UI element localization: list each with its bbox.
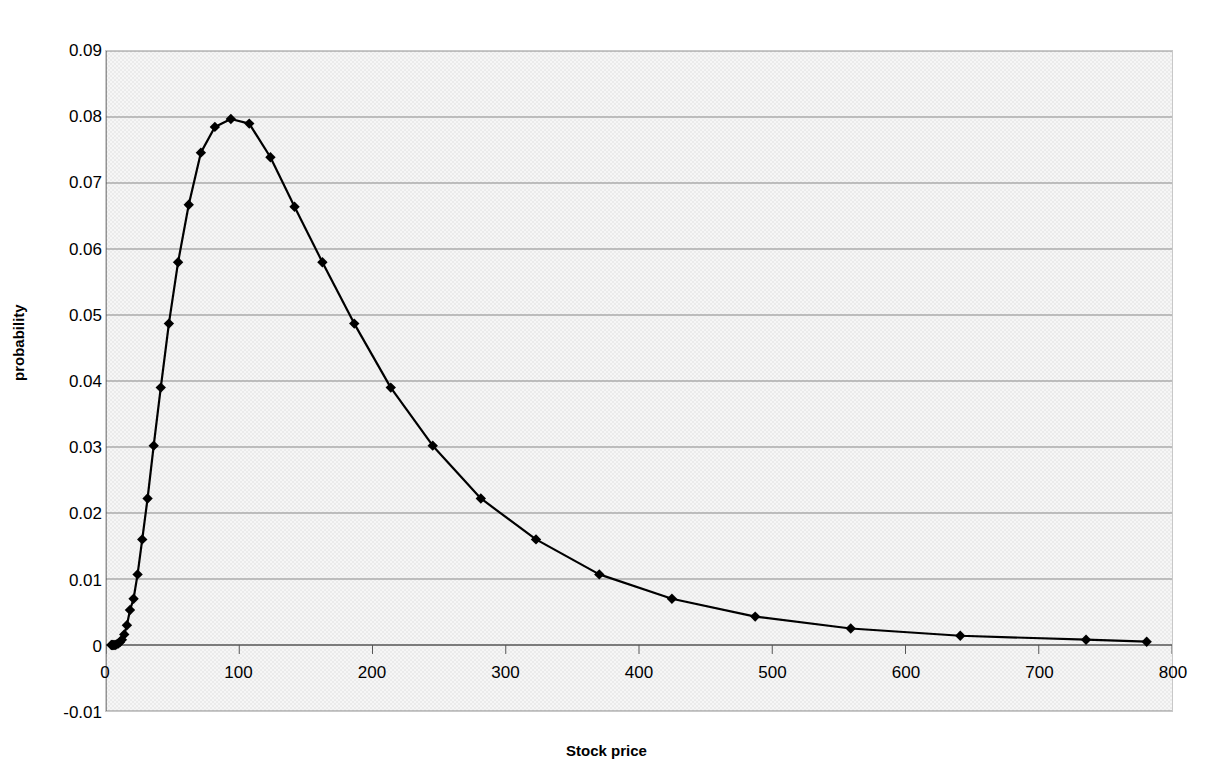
data-point-marker: [156, 382, 166, 392]
series-line: [111, 119, 1146, 645]
data-point-marker: [164, 318, 174, 328]
data-point-marker: [244, 118, 254, 128]
y-tick-label: 0.01: [12, 571, 102, 588]
y-tick-label: 0.06: [12, 240, 102, 257]
data-point-marker: [184, 200, 194, 210]
data-point-marker: [128, 594, 138, 604]
data-point-marker: [667, 594, 677, 604]
data-point-marker: [226, 114, 236, 124]
data-point-marker: [265, 152, 275, 162]
x-tick-label: 100: [224, 664, 252, 681]
x-tick-label: 200: [358, 664, 386, 681]
series-markers-group: [106, 114, 1152, 650]
data-point-marker: [173, 257, 183, 267]
data-point-marker: [132, 569, 142, 579]
x-tick-label: 700: [1025, 664, 1053, 681]
data-point-marker: [750, 611, 760, 621]
data-point-marker: [149, 440, 159, 450]
data-point-marker: [142, 493, 152, 503]
data-point-marker: [125, 605, 135, 615]
x-axis-title: Stock price: [0, 742, 1213, 759]
data-point-marker: [1081, 635, 1091, 645]
x-tick-label: 500: [758, 664, 786, 681]
data-point-marker: [122, 620, 132, 630]
y-axis-title: probability: [10, 304, 27, 381]
x-tick-label: 300: [491, 664, 519, 681]
x-tick-label: 400: [625, 664, 653, 681]
data-point-marker: [210, 122, 220, 132]
y-tick-label: 0.08: [12, 108, 102, 125]
data-point-marker: [137, 534, 147, 544]
chart-container: -0.0100.010.020.030.040.050.060.070.080.…: [0, 0, 1213, 779]
y-tick-label: -0.01: [12, 704, 102, 721]
x-tick-label: 0: [100, 664, 109, 681]
data-point-marker: [317, 257, 327, 267]
data-point-marker: [955, 631, 965, 641]
data-point-marker: [349, 318, 359, 328]
y-tick-label: 0.07: [12, 174, 102, 191]
plot-area: [105, 50, 1173, 712]
data-point-marker: [846, 623, 856, 633]
y-tick-label: 0.02: [12, 505, 102, 522]
x-tick-marks-group: [106, 645, 1172, 654]
y-tick-label: 0.09: [12, 42, 102, 59]
x-tick-label: 800: [1159, 664, 1187, 681]
x-tick-label: 600: [892, 664, 920, 681]
plot-svg: [106, 51, 1172, 711]
y-tick-label: 0: [12, 637, 102, 654]
y-tick-label: 0.03: [12, 439, 102, 456]
data-point-marker: [289, 202, 299, 212]
data-point-marker: [196, 147, 206, 157]
data-point-marker: [594, 569, 604, 579]
